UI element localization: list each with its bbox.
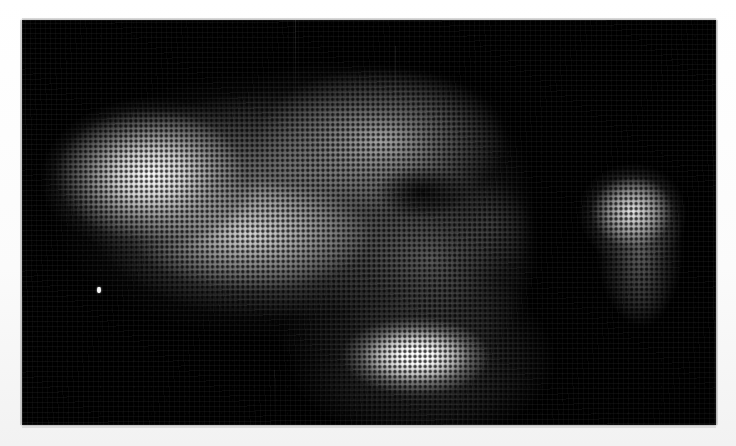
screenshot-root: Halftone-screened grayscale scan halfton… bbox=[0, 0, 736, 446]
dust-speck bbox=[97, 287, 101, 293]
plate-shadow-bottom bbox=[22, 425, 716, 428]
halftone-screen-secondary-layer bbox=[22, 20, 716, 425]
halftone-image-plate bbox=[22, 20, 716, 425]
